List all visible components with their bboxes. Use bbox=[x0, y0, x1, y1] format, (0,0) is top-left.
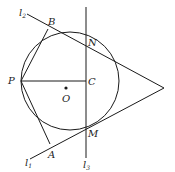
label-p: P bbox=[7, 75, 15, 86]
label-b: B bbox=[47, 16, 55, 27]
segment-pa bbox=[21, 81, 50, 144]
label-l2: l2 bbox=[19, 7, 26, 19]
label-a: A bbox=[47, 149, 55, 160]
label-o: O bbox=[62, 93, 70, 104]
center-dot-o bbox=[64, 86, 67, 89]
segment-pb bbox=[21, 29, 48, 81]
geometry-diagram: P B A N M C O l2 l1 l3 bbox=[0, 0, 175, 172]
label-l3: l3 bbox=[83, 159, 90, 171]
label-n: N bbox=[87, 37, 98, 48]
label-c: C bbox=[88, 76, 96, 87]
label-m: M bbox=[87, 128, 99, 139]
